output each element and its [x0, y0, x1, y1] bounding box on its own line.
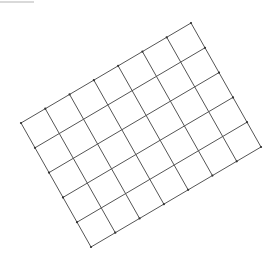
grid-vertex-dot [114, 232, 116, 234]
grid-vertex-dot [90, 246, 92, 248]
grid-vertex-dot [48, 172, 50, 174]
grid-vertex-dot [232, 96, 234, 98]
grid-row-line [77, 122, 247, 222]
grid-vertex-dot [166, 36, 168, 38]
grid-column-line [70, 94, 140, 218]
grid-vertex-dot [236, 160, 238, 162]
grid-vertex-dot [204, 47, 206, 49]
grid-vertex-dot [218, 72, 220, 74]
grid-vertex-dot [93, 79, 95, 81]
rotated-grid-diagram [0, 0, 279, 265]
grid-row-line [63, 97, 233, 197]
grid-column-line [21, 123, 91, 247]
grid-column-line [94, 80, 164, 204]
grid-column-line [191, 23, 261, 147]
grid-vertex-dot [138, 217, 140, 219]
grid-column-line [45, 109, 115, 233]
grid-row-line [91, 147, 261, 247]
grid-row-line [35, 48, 205, 148]
grid-vertex-dot [246, 121, 248, 123]
grid-vertex-dot [20, 122, 22, 124]
grid-vertex-dot [190, 22, 192, 24]
grid-column-line [167, 37, 237, 161]
grid-vertex-dot [68, 93, 70, 95]
grid-lines [21, 23, 261, 247]
grid-vertex-dot [187, 189, 189, 191]
grid-row-line [49, 73, 219, 173]
grid-row-line [21, 23, 191, 123]
grid-column-line [142, 52, 212, 176]
grid-vertex-dot [211, 174, 213, 176]
grid-vertex-dot [260, 146, 262, 148]
grid-vertex-dot [34, 147, 36, 149]
grid-column-line [118, 66, 188, 190]
grid-vertex-dot [62, 196, 64, 198]
grid-vertex-dot [117, 65, 119, 67]
grid-vertex-dot [44, 108, 46, 110]
grid-vertex-dot [76, 221, 78, 223]
grid-vertex-dot [141, 50, 143, 52]
grid-vertex-dot [163, 203, 165, 205]
